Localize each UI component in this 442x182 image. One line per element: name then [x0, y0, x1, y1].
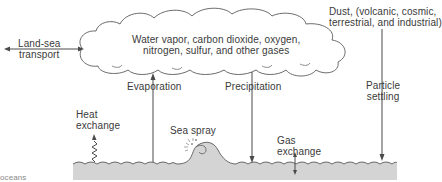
land-sea-transport-line2: transport: [18, 49, 61, 60]
particle-settling-line2: settling: [366, 91, 400, 102]
dust-label-line2: terrestrial, and industrial): [329, 17, 442, 28]
precipitation-label: Precipitation: [225, 81, 281, 92]
evaporation-line1: Evaporation: [127, 81, 181, 92]
precipitation-line1: Precipitation: [225, 81, 281, 92]
atmosphere-gases-line2: nitrogen, sulfur, and other gases: [132, 45, 300, 56]
footer-fragment-text: oceans: [0, 173, 26, 182]
sea-spray-line1: Sea spray: [170, 125, 216, 136]
atmosphere-gases-label: Water vapor, carbon dioxide, oxygen, nit…: [132, 34, 300, 56]
footer-fragment-label: oceans: [0, 174, 26, 182]
particle-settling-line1: Particle: [366, 80, 400, 91]
heat-exchange-line1: Heat: [76, 109, 120, 120]
particle-settling-label: Particle settling: [366, 80, 400, 102]
gas-exchange-line2: exchange: [277, 146, 321, 157]
sea-surface-line: [73, 142, 397, 164]
evaporation-label: Evaporation: [127, 81, 181, 92]
heat-exchange-label: Heat exchange: [76, 109, 120, 131]
gas-exchange-label: Gas exchange: [277, 135, 321, 157]
gas-exchange-line1: Gas: [277, 135, 321, 146]
sea-spray-label: Sea spray: [170, 125, 216, 136]
heat-exchange-arrow: [92, 134, 97, 162]
atmosphere-gases-line1: Water vapor, carbon dioxide, oxygen,: [132, 34, 300, 45]
land-sea-transport-label: Land-sea transport: [18, 38, 61, 60]
dust-label: Dust, (volcanic, cosmic, terrestrial, an…: [329, 6, 442, 28]
land-sea-transport-line1: Land-sea: [18, 38, 61, 49]
heat-exchange-line2: exchange: [76, 120, 120, 131]
sea-fill: [73, 142, 397, 180]
sea: [73, 142, 397, 180]
dust-label-line1: Dust, (volcanic, cosmic,: [329, 6, 442, 17]
